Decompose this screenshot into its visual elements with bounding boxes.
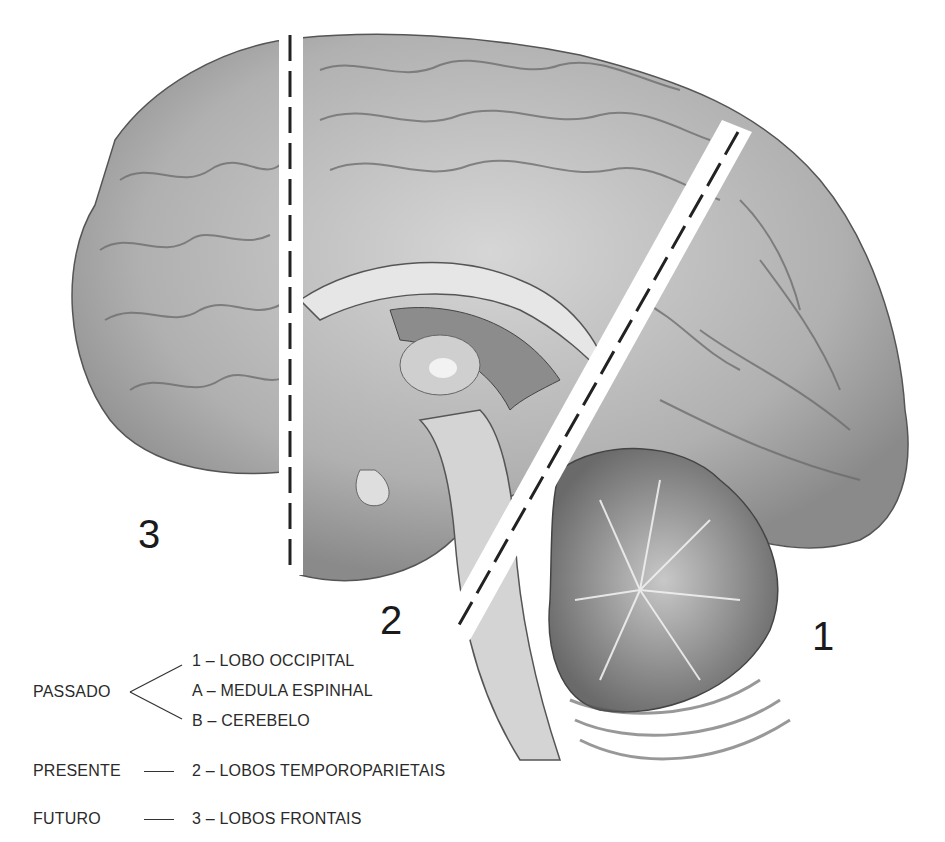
legend-item-temporoparietal: 2 – LOBOS TEMPOROPARIETAIS <box>192 762 445 780</box>
legend-future-label: FUTURO <box>33 810 101 828</box>
region-label-2: 2 <box>380 600 402 640</box>
legend-past-label: PASSADO <box>33 683 111 701</box>
legend-future-connector <box>144 819 174 820</box>
legend-item-spinal-cord: A – MEDULA ESPINHAL <box>192 682 373 700</box>
brain-sagittal-illustration <box>0 0 945 842</box>
region-label-3: 3 <box>138 514 160 554</box>
legend-present-label: PRESENTE <box>33 762 121 780</box>
legend-item-cerebellum: B – CEREBELO <box>192 712 310 730</box>
legend-present-connector <box>144 771 174 772</box>
region-label-1: 1 <box>812 616 834 656</box>
legend-item-occipital: 1 – LOBO OCCIPITAL <box>192 652 354 670</box>
legend-item-frontal: 3 – LOBOS FRONTAIS <box>192 810 362 828</box>
legend-bracket <box>130 665 182 719</box>
